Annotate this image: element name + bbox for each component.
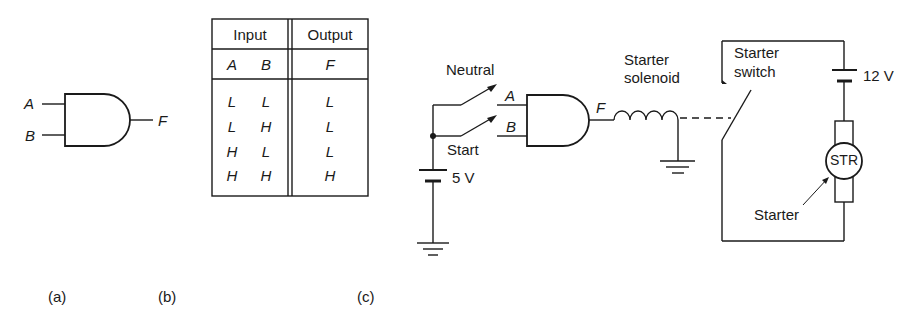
battery-12v-icon <box>832 70 857 81</box>
row-3-b: L <box>256 144 276 159</box>
caption-c: (c) <box>357 289 375 304</box>
gate-output-f: F <box>596 100 605 115</box>
header-input: Input <box>212 27 288 42</box>
row-2-f: L <box>320 119 340 134</box>
row-4-b: H <box>256 168 276 183</box>
battery-5v-icon <box>419 170 447 181</box>
input-b-label: B <box>25 128 35 143</box>
col-f: F <box>320 57 340 72</box>
junction-dot <box>430 133 436 139</box>
gate-input-a: A <box>505 88 515 103</box>
starter-label: Starter <box>754 207 799 222</box>
ground-icon <box>417 243 449 255</box>
header-output: Output <box>292 27 368 42</box>
and-gate-a <box>42 94 153 146</box>
start-label: Start <box>447 142 479 157</box>
gate-input-b: B <box>506 119 516 134</box>
battery-12v-label: 12 V <box>863 68 894 83</box>
neutral-label: Neutral <box>446 62 494 77</box>
caption-a: (a) <box>48 289 66 304</box>
solenoid-label-line2: solenoid <box>624 70 680 85</box>
input-a-label: A <box>24 96 34 111</box>
col-b: B <box>256 57 276 72</box>
row-1-a: L <box>222 94 242 109</box>
battery-5v-label: 5 V <box>452 170 475 185</box>
output-f-label: F <box>158 113 167 128</box>
row-1-b: L <box>256 94 276 109</box>
row-2-b: H <box>256 119 276 134</box>
caption-b: (b) <box>158 289 176 304</box>
row-2-a: L <box>222 119 242 134</box>
circuit-diagram <box>0 0 920 318</box>
row-3-f: L <box>320 144 340 159</box>
solenoid-label-line1: Starter <box>624 52 669 67</box>
switch-label-line2: switch <box>734 64 776 79</box>
ground-icon <box>660 161 695 173</box>
row-3-a: H <box>222 144 242 159</box>
row-4-a: H <box>222 168 242 183</box>
row-4-f: H <box>320 168 340 183</box>
row-1-f: L <box>320 94 340 109</box>
switch-label-line1: Starter <box>734 45 779 60</box>
motor-label: STR <box>826 153 862 167</box>
col-a: A <box>222 57 242 72</box>
